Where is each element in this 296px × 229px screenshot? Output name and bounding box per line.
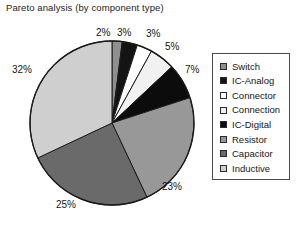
pie-plot-area: 2%3%3%5%7%23%25%32% [0, 0, 212, 229]
legend-item-label: IC-Analog [232, 76, 274, 86]
legend-item-resistor[interactable]: Resistor [220, 132, 289, 147]
legend-item-label: Resistor [232, 135, 267, 145]
pie-chart-figure: Pareto analysis (by component type) 2%3%… [0, 0, 296, 229]
legend-item-label: Switch [232, 62, 260, 72]
slice-percent-label: 7% [185, 64, 199, 75]
slice-percent-label: 5% [165, 41, 179, 52]
legend-item-label: Capacitor [232, 149, 273, 159]
legend-item-switch[interactable]: Switch [220, 59, 289, 74]
slice-percent-label: 32% [12, 64, 32, 75]
legend-item-label: Inductive [232, 164, 270, 174]
slice-percent-label: 3% [146, 28, 160, 39]
slice-percent-label: 23% [162, 181, 182, 192]
legend-item-connection[interactable]: Connection [220, 103, 289, 118]
legend-box: SwitchIC-AnalogConnectorConnectionIC-Dig… [212, 53, 290, 180]
legend-swatch-icon [220, 63, 227, 70]
legend-item-label: Connection [232, 105, 280, 115]
legend-swatch-icon [220, 92, 227, 99]
legend-item-label: IC-Digital [232, 120, 271, 130]
slice-percent-label: 2% [96, 27, 110, 38]
legend-item-connector[interactable]: Connector [220, 88, 289, 103]
legend-item-capacitor[interactable]: Capacitor [220, 147, 289, 162]
legend-item-ic-analog[interactable]: IC-Analog [220, 74, 289, 89]
legend-swatch-icon [220, 77, 227, 84]
legend-swatch-icon [220, 150, 227, 157]
legend-swatch-icon [220, 121, 227, 128]
legend-swatch-icon [220, 165, 227, 172]
legend-item-ic-digital[interactable]: IC-Digital [220, 117, 289, 132]
legend-item-inductive[interactable]: Inductive [220, 161, 289, 176]
slice-percent-label: 25% [56, 199, 76, 210]
slice-percent-label: 3% [117, 27, 131, 38]
legend-swatch-icon [220, 136, 227, 143]
legend-item-label: Connector [232, 91, 276, 101]
legend-swatch-icon [220, 107, 227, 114]
